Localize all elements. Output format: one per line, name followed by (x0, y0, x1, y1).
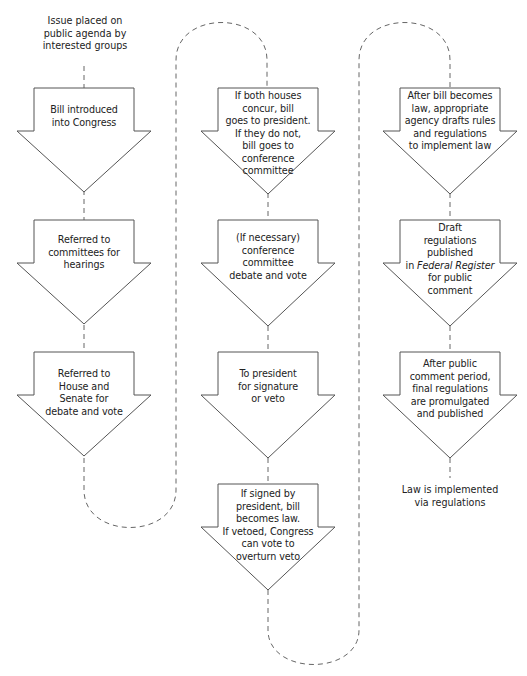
step-label-c3-2: Draftregulationspublishedin Federal Regi… (380, 222, 520, 297)
start-label: Issue placed onpublic agenda byintereste… (20, 15, 150, 53)
step-label-c2-1: If both housesconcur, billgoes to presid… (198, 90, 338, 178)
step-label-c1-1: Bill introducedinto Congress (14, 104, 154, 129)
step-label-c2-2: (If necessary)conferencecommitteedebate … (198, 232, 338, 282)
step-label-c2-3: To presidentfor signatureor veto (198, 368, 338, 406)
step-label-c3-3: After publiccomment period,final regulat… (380, 358, 520, 421)
step-label-c1-3: Referred toHouse andSenate fordebate and… (14, 368, 154, 418)
step-label-c3-1: After bill becomeslaw, appropriateagency… (380, 90, 520, 153)
step-label-c1-2: Referred tocommittees forhearings (14, 234, 154, 272)
end-label: Law is implementedvia regulations (385, 484, 515, 509)
step-label-c2-4: If signed bypresident, billbecomes law.I… (198, 488, 338, 563)
